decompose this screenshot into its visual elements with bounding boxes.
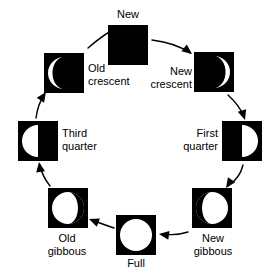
arrow-full-to-old-gibbous [87,215,114,228]
phase-label-first-quarter: First quarter [160,127,218,153]
arrow-third-quarter-to-old-crescent [36,90,50,118]
moon-disc-full-icon [116,215,156,255]
moon-disc-new-gibbous-icon [192,188,232,228]
moon-disc-first-quarter-icon [222,121,262,161]
moon-disc-new-icon [108,25,148,65]
arrow-first-quarter-to-new-gibbous [222,165,243,190]
phase-label-third-quarter: Third quarter [62,127,120,153]
moon-phase-old-crescent [44,53,84,93]
moon-phase-first-quarter [222,121,262,161]
moon-phase-old-gibbous [48,188,88,228]
phase-label-old-gibbous: Old gibbous [36,232,98,258]
phase-label-new-gibbous: New gibbous [182,232,244,258]
phase-label-full: Full [106,257,166,270]
arrow-new-to-new-crescent [152,40,195,57]
moon-disc-old-crescent-icon [44,53,84,93]
arrow-new-to-new-crescent-head-icon [181,44,194,57]
moon-disc-old-gibbous-icon [48,188,88,228]
arrow-full-to-old-gibbous-head-icon [87,215,99,227]
moon-disc-third-quarter-icon [18,121,58,161]
moon-phase-new-crescent [194,52,234,92]
arrow-old-gibbous-to-third-quarter-head-icon [35,161,45,172]
arrow-new-crescent-to-first-quarter-head-icon [238,109,249,121]
phase-label-old-crescent: Old crescent [88,62,152,88]
moon-phase-new-gibbous [192,188,232,228]
arrow-new-crescent-to-first-quarter [228,95,249,121]
phase-label-new: New [98,8,158,21]
moon-phase-full [116,215,156,255]
arrow-old-gibbous-to-third-quarter [35,161,50,186]
moon-disc-new-crescent-icon [194,52,234,92]
moon-phase-diagram: NewNew crescentFirst quarterNew gibbousF… [0,0,266,279]
moon-phase-new [108,25,148,65]
moon-phase-third-quarter [18,121,58,161]
arrow-new-gibbous-to-full-head-icon [158,230,169,240]
